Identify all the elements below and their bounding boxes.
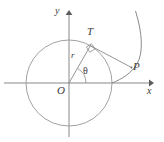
involute-circle-figure: y x O T P r θ xyxy=(0,0,164,142)
origin-label: O xyxy=(57,85,65,96)
curve-point-label: P xyxy=(133,61,140,72)
x-axis-label: x xyxy=(147,86,151,96)
involute-curve xyxy=(112,11,141,83)
y-axis-label: y xyxy=(55,6,59,16)
radius-label: r xyxy=(71,51,75,60)
tangent-segment xyxy=(90,46,132,68)
angle-theta-label: θ xyxy=(83,66,88,76)
tangent-point-label: T xyxy=(87,26,93,37)
y-axis-arrowhead xyxy=(66,10,73,15)
